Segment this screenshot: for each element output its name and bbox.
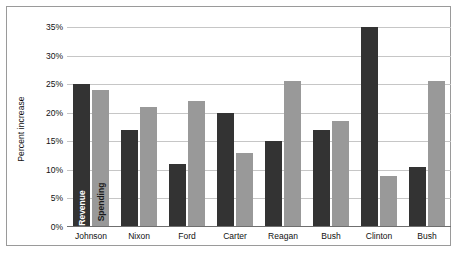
x-axis-label: Nixon: [115, 231, 163, 247]
y-axis-tick: 35%: [15, 22, 63, 32]
bar-groups: RevenueSpending: [67, 27, 451, 227]
bar-revenue[interactable]: [409, 167, 426, 227]
bar-spending[interactable]: Spending: [92, 90, 109, 227]
y-axis-tick: 15%: [15, 136, 63, 146]
y-axis-tick: 5%: [15, 193, 63, 203]
bar-group: [259, 27, 307, 227]
x-axis-label: Ford: [163, 231, 211, 247]
bar-revenue[interactable]: Revenue: [73, 84, 90, 227]
bar-group: [115, 27, 163, 227]
bar-spending[interactable]: [236, 153, 253, 227]
x-axis-baseline: [67, 226, 451, 227]
x-axis-label: Reagan: [259, 231, 307, 247]
y-axis-tick: 30%: [15, 51, 63, 61]
bar-spending[interactable]: [188, 101, 205, 227]
y-axis-tick: 10%: [15, 165, 63, 175]
bar-spending[interactable]: [380, 176, 397, 227]
bar-revenue[interactable]: [121, 130, 138, 227]
x-axis-label: Clinton: [355, 231, 403, 247]
bar-group: [211, 27, 259, 227]
bar-group: [163, 27, 211, 227]
bar-spending[interactable]: [428, 81, 445, 227]
plot-area: RevenueSpending: [67, 27, 451, 227]
bar-group: [355, 27, 403, 227]
bar-spending[interactable]: [284, 81, 301, 227]
x-axis-label: Bush: [403, 231, 451, 247]
bar-revenue[interactable]: [265, 141, 282, 227]
bar-spending[interactable]: [140, 107, 157, 227]
y-axis-tick-labels: 35%30%25%20%15%10%5%0%: [7, 27, 63, 227]
bar-group: [307, 27, 355, 227]
bar-revenue[interactable]: [217, 113, 234, 227]
y-axis-tick: 20%: [15, 108, 63, 118]
bar-revenue[interactable]: [313, 130, 330, 227]
y-axis-tick: 25%: [15, 79, 63, 89]
legend-label-revenue: Revenue: [77, 190, 87, 225]
bar-group: RevenueSpending: [67, 27, 115, 227]
x-axis-label: Carter: [211, 231, 259, 247]
x-axis-label: Bush: [307, 231, 355, 247]
y-axis-tick: 0%: [15, 222, 63, 232]
bar-group: [403, 27, 451, 227]
bar-revenue[interactable]: [361, 27, 378, 227]
bar-spending[interactable]: [332, 121, 349, 227]
x-axis-label: Johnson: [67, 231, 115, 247]
chart-frame: Percent increase 35%30%25%20%15%10%5%0% …: [6, 6, 451, 246]
bar-revenue[interactable]: [169, 164, 186, 227]
x-axis-category-labels: JohnsonNixonFordCarterReaganBushClintonB…: [67, 231, 451, 247]
legend-label-spending: Spending: [96, 183, 106, 222]
